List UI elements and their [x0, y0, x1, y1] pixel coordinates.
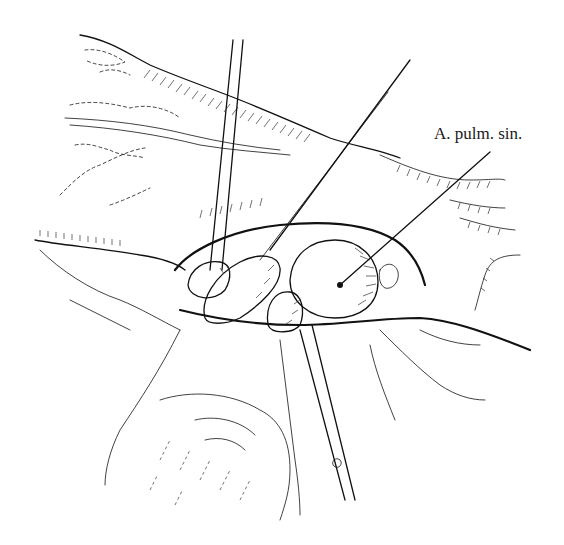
operative-field — [175, 223, 530, 350]
label-leader-line — [340, 152, 490, 285]
lung-tissue-lower — [40, 250, 485, 520]
label-a-pulm-sin: A. pulm. sin. — [434, 124, 522, 144]
illustration-drawing — [0, 0, 564, 545]
chest-wall-right — [380, 155, 520, 310]
surgical-illustration — [0, 0, 564, 545]
vessel-elongated — [204, 256, 280, 323]
left-pulmonary-artery — [290, 240, 378, 318]
